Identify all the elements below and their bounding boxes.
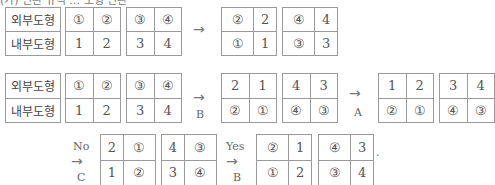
operation-label-b: B [196, 108, 204, 121]
clipped-header-text: (가) 변환 규칙 … 도형 변환 [0, 0, 127, 7]
trailing-period: . [376, 146, 380, 159]
outer-shape-label: 외부도형 [6, 74, 61, 99]
operation-label-a: A [354, 106, 362, 119]
row2-step2-box-2: 34 ④③ [439, 73, 495, 123]
row1-label-table: 외부도형 내부도형 [5, 7, 61, 56]
row2-input-box-1: ①② 12 [65, 73, 121, 123]
outer-shape-label: 외부도형 [6, 8, 61, 32]
arrow-icon: → [349, 86, 361, 100]
inner-shape-label: 내부도형 [6, 98, 61, 123]
arrow-icon: → [226, 154, 238, 168]
row1-output-box-1: ②2 ①1 [221, 7, 277, 56]
arrow-icon: → [193, 90, 205, 104]
row2-label-table: 외부도형 내부도형 [5, 73, 61, 123]
arrow-icon: → [71, 154, 83, 168]
row1-input-box-2: ③④ 34 [126, 7, 182, 56]
row1-output-box-2: ④4 ③3 [282, 7, 338, 56]
operation-label-c: C [77, 171, 85, 184]
row3-step1-box-2: 4③ 3④ [161, 134, 217, 185]
row2-step1-box-1: 21 ②① [221, 73, 277, 123]
arrow-icon: → [193, 22, 205, 36]
row2-step2-box-1: 12 ②① [378, 73, 434, 123]
condition-yes-label: Yes [226, 140, 244, 153]
inner-shape-label: 내부도형 [6, 32, 61, 56]
row1-input-box-1: ①② 12 [65, 7, 121, 56]
row3-step1-box-1: 2① 1② [100, 134, 156, 185]
operation-label-b: B [233, 171, 241, 184]
condition-no-label: No [73, 140, 89, 153]
row3-step2-box-1: ②1 ①2 [256, 134, 312, 185]
row3-step2-box-2: ④3 ③4 [318, 134, 374, 185]
row2-input-box-2: ③④ 34 [126, 73, 182, 123]
row2-step1-box-2: 43 ④③ [282, 73, 338, 123]
